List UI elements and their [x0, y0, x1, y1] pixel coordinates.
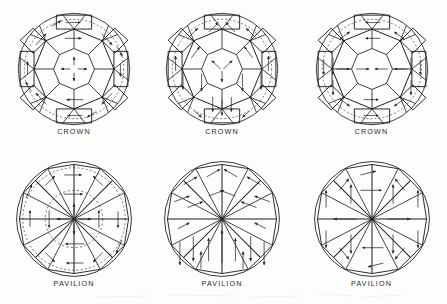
diagram-label: PAVILION: [0, 279, 148, 288]
diagram-label: CROWN: [148, 127, 296, 136]
crown-diagram-svg: [302, 4, 442, 134]
diagram-pavilion-1: PAVILION: [0, 148, 148, 304]
table-facet: [202, 49, 243, 90]
diagram-pavilion-3: PAVILION: [296, 148, 447, 304]
table-facet: [54, 49, 95, 90]
pavilion-diagram-svg: [4, 152, 144, 286]
diagram-crown-2: CROWN: [148, 0, 296, 148]
diagram-pavilion-2: PAVILION: [148, 148, 296, 304]
diagram-crown-1: CROWN: [0, 0, 148, 148]
pavilion-diagram-svg: [302, 152, 442, 286]
diagram-crown-3: CROWN: [296, 0, 447, 148]
diagram-label: CROWN: [296, 127, 447, 136]
crown-diagram-svg: [152, 4, 292, 134]
facet-diagram-grid: CROWN: [0, 0, 447, 304]
diagram-label: PAVILION: [148, 279, 296, 288]
diagram-label: CROWN: [0, 127, 148, 136]
crown-diagram-svg: [4, 4, 144, 134]
diagram-label: PAVILION: [296, 279, 447, 288]
pavilion-diagram-svg: [152, 152, 292, 286]
